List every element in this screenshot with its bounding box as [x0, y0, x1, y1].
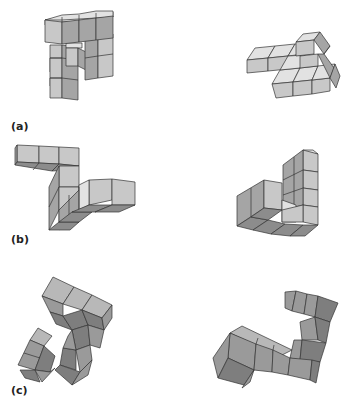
- object-b-left: [15, 145, 135, 230]
- object-a-left: [45, 11, 113, 100]
- mental-rotation-figure: [0, 0, 351, 402]
- panel-label-a: (a): [11, 120, 28, 133]
- object-a-right: [247, 32, 340, 98]
- object-c-left: [18, 277, 112, 385]
- object-c-right: [213, 291, 338, 388]
- panel-label-c: (c): [11, 384, 28, 397]
- panel-label-b: (b): [11, 233, 29, 246]
- object-b-right: [237, 150, 318, 236]
